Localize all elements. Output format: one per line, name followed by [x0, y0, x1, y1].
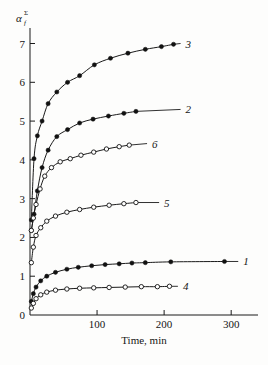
data-point — [92, 205, 96, 209]
data-point — [65, 210, 69, 214]
data-point — [155, 284, 159, 288]
data-point — [134, 109, 138, 113]
data-point — [40, 166, 44, 170]
data-point — [45, 290, 49, 294]
data-point — [39, 293, 43, 297]
y-tick-label: 7 — [20, 38, 26, 50]
data-point — [38, 187, 42, 191]
data-point — [55, 134, 59, 138]
data-point — [46, 102, 50, 106]
series-leader-6 — [129, 144, 147, 146]
data-point — [65, 267, 69, 271]
data-point — [78, 121, 82, 125]
x-tick-label: 300 — [223, 318, 240, 330]
curve-label-group: 123456 — [152, 38, 249, 293]
curve-label-1: 1 — [243, 255, 249, 267]
series-4 — [29, 284, 178, 310]
y-tick-label: 1 — [20, 270, 26, 282]
data-point — [107, 203, 111, 207]
data-point — [130, 261, 134, 265]
data-point — [77, 286, 81, 290]
data-point — [31, 301, 35, 305]
data-point — [143, 47, 147, 51]
curve-label-2: 2 — [186, 103, 192, 115]
curve-label-6: 6 — [152, 138, 158, 150]
data-point — [103, 262, 107, 266]
data-point — [65, 80, 69, 84]
data-point — [34, 285, 38, 289]
y-tick-label: 6 — [20, 76, 26, 88]
data-point — [34, 297, 38, 301]
series-line-6 — [31, 145, 129, 230]
series-line-4 — [31, 286, 169, 308]
data-point — [29, 228, 33, 232]
data-point — [65, 287, 69, 291]
data-point — [134, 200, 138, 204]
data-point — [90, 264, 94, 268]
data-point — [92, 150, 96, 154]
data-point — [171, 42, 175, 46]
data-point — [169, 260, 173, 264]
data-point — [79, 153, 83, 157]
data-point — [39, 279, 43, 283]
data-point — [40, 119, 44, 123]
x-tick-label: 200 — [156, 318, 173, 330]
data-point — [127, 143, 131, 147]
data-point — [31, 245, 35, 249]
series-line-3 — [31, 44, 173, 220]
data-point — [31, 216, 35, 220]
data-point — [34, 233, 38, 237]
series-leader-2 — [136, 109, 181, 111]
y-tick-label: 4 — [20, 154, 26, 166]
data-point — [117, 262, 121, 266]
data-point — [108, 56, 112, 60]
data-point — [29, 260, 33, 264]
y-axis-label-symbol: α — [16, 12, 22, 24]
y-axis-label: α f Σ — [16, 9, 28, 27]
data-point — [104, 147, 108, 151]
x-axis-title: Time, min — [121, 334, 167, 346]
data-point — [92, 286, 96, 290]
data-point — [49, 165, 53, 169]
data-point — [107, 285, 111, 289]
data-point — [55, 90, 59, 94]
data-point — [43, 174, 47, 178]
y-tick-label: 2 — [20, 231, 26, 243]
y-tick-label: 5 — [20, 115, 26, 127]
series-line-1 — [31, 261, 224, 301]
data-point — [32, 157, 36, 161]
data-point — [122, 201, 126, 205]
data-point — [58, 160, 62, 164]
data-point — [123, 285, 127, 289]
data-point — [76, 265, 80, 269]
data-point — [159, 45, 163, 49]
data-point — [65, 128, 69, 132]
chart-figure: α f Σ 01234567 100200300 123456 Time, mi… — [0, 0, 268, 365]
data-point — [167, 284, 171, 288]
kinetics-line-chart: α f Σ 01234567 100200300 123456 Time, mi… — [0, 0, 268, 365]
curve-label-5: 5 — [164, 197, 170, 209]
x-tick-label: 100 — [89, 318, 106, 330]
data-point — [78, 74, 82, 78]
data-point — [91, 117, 95, 121]
data-point — [139, 284, 143, 288]
data-point — [46, 148, 50, 152]
data-point — [106, 114, 110, 118]
data-point — [68, 157, 72, 161]
series-line-2 — [31, 111, 136, 230]
data-point — [29, 306, 33, 310]
series-1 — [29, 259, 238, 303]
y-axis-label-superscript: Σ — [24, 9, 28, 17]
data-point — [45, 274, 49, 278]
y-tick-label: 3 — [20, 193, 26, 205]
curve-label-3: 3 — [185, 38, 192, 50]
data-point — [117, 144, 121, 148]
x-axis-ticks: 100200300 — [89, 310, 240, 330]
curve-label-4: 4 — [183, 280, 189, 292]
y-tick-label: 0 — [20, 309, 26, 321]
data-point — [92, 63, 96, 67]
series-5 — [29, 200, 159, 265]
data-point — [53, 288, 57, 292]
series-line-5 — [31, 203, 136, 263]
data-point — [53, 214, 57, 218]
